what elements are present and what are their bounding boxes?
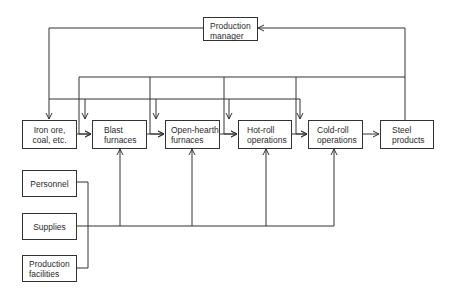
cold-roll-operations-box: Cold-roll operations [308, 120, 363, 149]
blast-furnaces-box: Blast furnaces [92, 120, 147, 149]
open-hearth-furnaces-box: Open-hearth furnaces [165, 120, 220, 149]
steel-production-diagram: Production manager Iron ore, coal, etc. … [0, 0, 454, 297]
open-hearth-label-line1: Open-hearth [171, 125, 219, 135]
blast-furnaces-label-line2: furnaces [104, 135, 146, 145]
iron-ore-label-line2: coal, etc. [23, 135, 76, 145]
personnel-box: Personnel [22, 170, 77, 197]
hot-roll-label-line1: Hot-roll [247, 125, 291, 135]
hot-roll-operations-box: Hot-roll operations [238, 120, 292, 149]
personnel-label: Personnel [23, 179, 76, 189]
production-facilities-label-line1: Production [29, 259, 76, 269]
production-manager-box: Production manager [203, 17, 258, 41]
cold-roll-label-line1: Cold-roll [317, 125, 362, 135]
iron-ore-label-line1: Iron ore, [23, 125, 76, 135]
production-facilities-box: Production facilities [22, 255, 77, 282]
cold-roll-label-line2: operations [317, 135, 362, 145]
open-hearth-label-line2: furnaces [171, 135, 219, 145]
production-manager-label-line2: manager [210, 31, 257, 41]
supplies-box: Supplies [22, 213, 77, 240]
blast-furnaces-label-line1: Blast [104, 125, 146, 135]
production-manager-label-line1: Production [210, 21, 257, 31]
hot-roll-label-line2: operations [247, 135, 291, 145]
production-facilities-label-line2: facilities [29, 269, 76, 279]
steel-products-label-line2: products [392, 135, 433, 145]
iron-ore-box: Iron ore, coal, etc. [22, 120, 77, 149]
supplies-label: Supplies [23, 222, 76, 232]
steel-products-label-line1: Steel [392, 125, 433, 135]
steel-products-box: Steel products [380, 120, 434, 149]
